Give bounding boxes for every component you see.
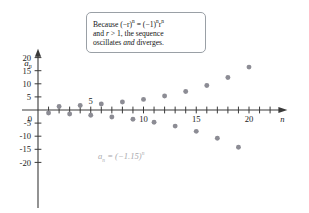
x-axis-title: n xyxy=(280,114,284,124)
annotation-callout: Because (−r)n = (−1)nrn and r > 1, the s… xyxy=(86,12,206,53)
data-point xyxy=(152,120,157,125)
y-tick-label-10: 10 xyxy=(22,79,31,89)
data-point xyxy=(194,129,199,134)
data-point xyxy=(78,103,83,108)
data-point xyxy=(46,111,51,116)
y-tick-label--10: -10 xyxy=(20,131,31,141)
y-axis-arrowhead xyxy=(35,49,41,57)
figure-container: 5101520-20-15-10-505101520nan Because (−… xyxy=(0,0,309,213)
x-axis-arrowhead xyxy=(278,107,287,113)
data-point xyxy=(162,94,167,99)
data-point xyxy=(99,101,104,106)
data-point xyxy=(204,83,209,88)
y-tick-label-0: 0 xyxy=(28,114,32,124)
data-point xyxy=(183,89,188,94)
annotation-text: diverges. xyxy=(135,38,164,47)
formula-exponent: n xyxy=(142,150,145,156)
annotation-line-3: oscillates and diverges. xyxy=(93,38,200,47)
data-point xyxy=(120,100,125,105)
x-tick-label-10: 10 xyxy=(139,114,148,124)
exponent: n xyxy=(161,18,164,24)
x-tick-label-20: 20 xyxy=(245,114,254,124)
annotation-line-2: and r > 1, the sequence xyxy=(93,29,200,38)
annotation-text: = (−1) xyxy=(135,20,156,29)
data-point xyxy=(67,112,72,117)
data-point xyxy=(247,65,252,70)
data-point xyxy=(225,75,230,80)
data-point xyxy=(141,97,146,102)
data-point xyxy=(109,115,114,120)
data-point xyxy=(131,117,136,122)
emphasis-and: and xyxy=(123,38,134,47)
data-point xyxy=(57,104,62,109)
formula-body: = (−1.15) xyxy=(105,151,142,161)
y-tick-label--20: -20 xyxy=(20,158,31,168)
x-tick-label-15: 15 xyxy=(192,114,201,124)
data-point xyxy=(88,113,93,118)
annotation-text: Because (−r) xyxy=(93,20,132,29)
y-tick-label-5: 5 xyxy=(27,92,31,102)
annotation-text: oscillates xyxy=(93,38,123,47)
data-point xyxy=(215,136,220,141)
annotation-text: > 1, the sequence xyxy=(109,29,164,38)
data-point xyxy=(236,145,241,150)
annotation-line-1: Because (−r)n = (−1)nrn xyxy=(93,17,200,29)
sequence-formula-label: an = (−1.15)n xyxy=(98,150,144,163)
data-point xyxy=(173,124,178,129)
annotation-text: and xyxy=(93,29,106,38)
x-tick-label-5: 5 xyxy=(89,96,93,106)
y-tick-label--15: -15 xyxy=(20,144,31,154)
